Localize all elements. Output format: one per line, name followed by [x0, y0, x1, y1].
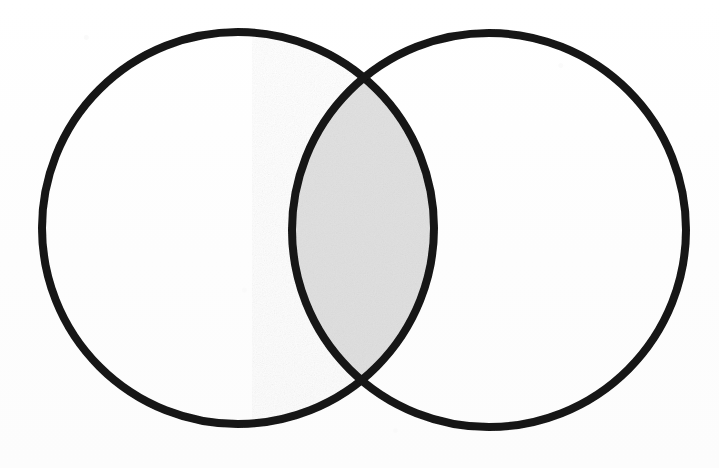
venn-diagram-figure: [0, 0, 719, 468]
venn-diagram-canvas: [0, 0, 719, 468]
